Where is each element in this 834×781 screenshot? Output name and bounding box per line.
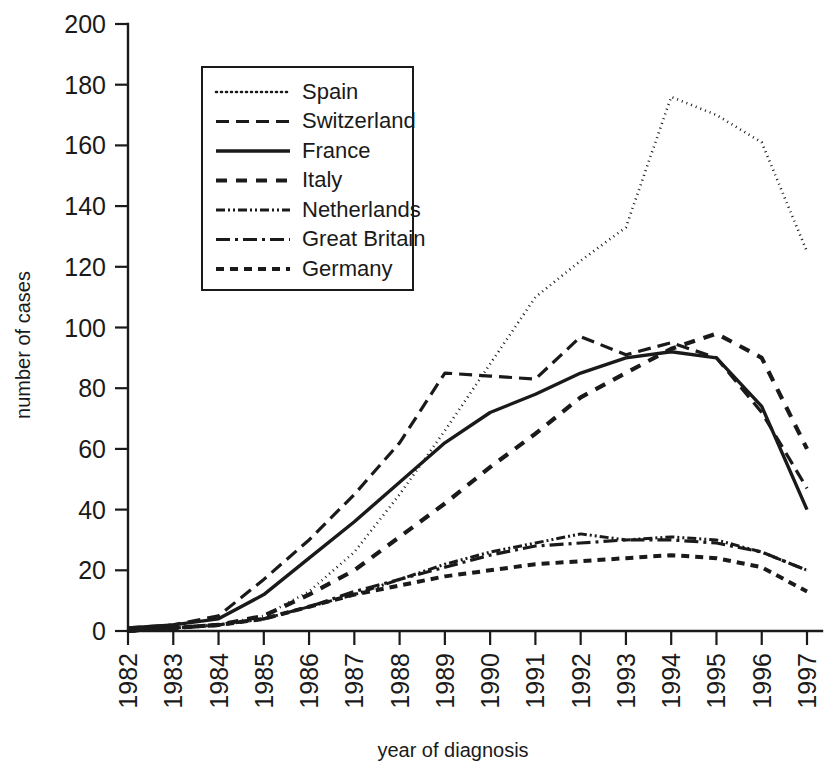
x-tick-label: 1995 xyxy=(702,653,730,709)
legend[interactable]: SpainSwitzerlandFranceItalyNetherlandsGr… xyxy=(202,67,426,290)
x-tick-label: 1992 xyxy=(567,653,595,709)
x-tick-label: 1985 xyxy=(250,653,278,709)
x-tick-label: 1990 xyxy=(476,653,504,709)
legend-label-great-britain[interactable]: Great Britain xyxy=(302,226,426,251)
x-tick-label: 1989 xyxy=(431,653,459,709)
x-tick-label: 1993 xyxy=(612,653,640,709)
x-tick-label: 1988 xyxy=(386,653,414,709)
x-tick-label: 1983 xyxy=(159,653,187,709)
y-tick-label: 160 xyxy=(64,131,106,159)
line-chart: 020406080100120140160180200 198219831984… xyxy=(0,0,834,781)
y-tick-label: 20 xyxy=(78,556,106,584)
legend-label-netherlands[interactable]: Netherlands xyxy=(302,197,421,222)
y-tick-label: 180 xyxy=(64,71,106,99)
y-tick-label: 140 xyxy=(64,192,106,220)
y-tick-label: 80 xyxy=(78,374,106,402)
legend-label-italy[interactable]: Italy xyxy=(302,167,342,192)
x-tick-label: 1984 xyxy=(205,653,233,709)
legend-label-germany[interactable]: Germany xyxy=(302,256,392,281)
legend-label-switzerland[interactable]: Switzerland xyxy=(302,108,416,133)
y-tick-label: 200 xyxy=(64,10,106,38)
x-tick-label: 1997 xyxy=(793,653,821,709)
x-tick-label: 1994 xyxy=(657,653,685,709)
x-tick-label: 1986 xyxy=(295,653,323,709)
x-tick-label: 1991 xyxy=(521,653,549,709)
y-tick-label: 40 xyxy=(78,496,106,524)
chart-page: 020406080100120140160180200 198219831984… xyxy=(0,0,834,781)
y-axis-title: number of cases xyxy=(12,271,34,419)
x-tick-label: 1996 xyxy=(748,653,776,709)
y-tick-label: 0 xyxy=(92,617,106,645)
y-tick-label: 120 xyxy=(64,253,106,281)
x-tick-label: 1982 xyxy=(114,653,142,709)
x-axis-title: year of diagnosis xyxy=(377,739,528,761)
y-tick-label: 60 xyxy=(78,435,106,463)
legend-label-france[interactable]: France xyxy=(302,138,370,163)
x-tick-label: 1987 xyxy=(340,653,368,709)
y-tick-label: 100 xyxy=(64,314,106,342)
legend-label-spain[interactable]: Spain xyxy=(302,79,358,104)
